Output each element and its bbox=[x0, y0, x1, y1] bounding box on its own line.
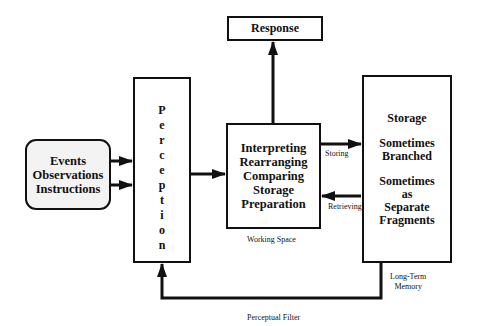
storage-line: Storage bbox=[387, 112, 426, 125]
working-line: Comparing bbox=[243, 169, 304, 183]
perception-vertical-label: P e r c e p t i o n bbox=[135, 103, 189, 253]
instructions-line: Instructions bbox=[36, 182, 101, 196]
perception-node: P e r c e p t i o n bbox=[133, 77, 191, 263]
letter: p bbox=[135, 178, 189, 193]
events-node: Events Observations Instructions bbox=[25, 139, 111, 210]
letter: e bbox=[135, 118, 189, 133]
storing-label: Storing bbox=[325, 149, 349, 158]
storage-group: Sometimes as Separate Fragments bbox=[379, 175, 434, 227]
letter: r bbox=[135, 133, 189, 148]
perceptual-filter-label: Perceptual Filter bbox=[247, 313, 300, 322]
working-line: Interpreting bbox=[241, 141, 307, 155]
storage-line: Sometimes bbox=[379, 137, 434, 150]
storage-line: Separate bbox=[379, 201, 434, 214]
working-space-node: Interpreting Rearranging Comparing Stora… bbox=[226, 123, 321, 229]
working-line: Storage bbox=[253, 183, 294, 197]
working-line: Preparation bbox=[241, 197, 305, 211]
storage-line: Sometimes bbox=[379, 175, 434, 188]
storage-line: as bbox=[379, 188, 434, 201]
working-space-caption: Working Space bbox=[247, 235, 296, 244]
storage-line: Fragments bbox=[379, 214, 434, 227]
storage-group: Sometimes Branched bbox=[379, 137, 434, 163]
working-line: Rearranging bbox=[239, 155, 307, 169]
storage-group: Storage bbox=[387, 112, 426, 125]
storage-line: Branched bbox=[379, 150, 434, 163]
letter: i bbox=[135, 208, 189, 223]
letter: c bbox=[135, 148, 189, 163]
letter: n bbox=[135, 238, 189, 253]
letter: o bbox=[135, 223, 189, 238]
observations-line: Observations bbox=[33, 168, 104, 182]
caption-line: Memory bbox=[390, 282, 426, 292]
retrieving-label: Retrieving bbox=[328, 202, 362, 211]
letter: P bbox=[135, 103, 189, 118]
long-term-memory-node: Storage Sometimes Branched Sometimes as … bbox=[362, 75, 452, 263]
letter: e bbox=[135, 163, 189, 178]
arrow-perceptual-filter bbox=[162, 263, 381, 298]
response-label: Response bbox=[251, 21, 299, 36]
long-term-memory-caption: Long-Term Memory bbox=[390, 272, 426, 292]
caption-line: Long-Term bbox=[390, 272, 426, 282]
events-line: Events bbox=[50, 154, 86, 168]
letter: t bbox=[135, 193, 189, 208]
response-node: Response bbox=[227, 16, 323, 41]
